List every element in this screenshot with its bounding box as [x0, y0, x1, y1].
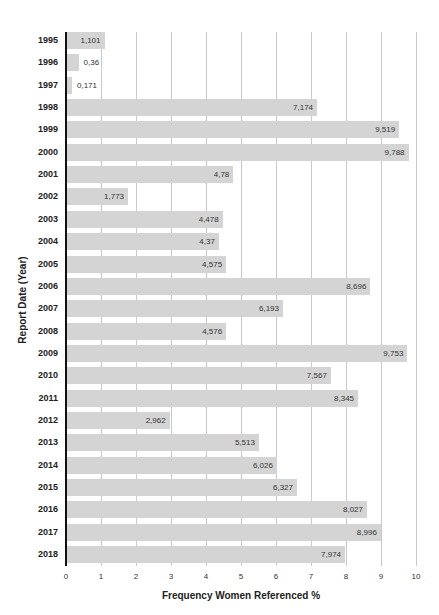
y-tick-label: 2014 [18, 457, 58, 474]
bar-row: 20122,962 [0, 412, 439, 429]
y-tick-label: 2002 [18, 188, 58, 205]
bar-value-label: 6,026 [253, 457, 273, 474]
y-tick-label: 2016 [18, 501, 58, 518]
y-tick-label: 2015 [18, 479, 58, 496]
bar-value-label: 0,36 [84, 54, 100, 71]
bar-value-label: 5,513 [235, 434, 255, 451]
y-tick-label: 2009 [18, 345, 58, 362]
bar [67, 479, 297, 496]
bar-value-label: 7,567 [307, 367, 327, 384]
bar [67, 166, 233, 183]
bar-row: 20021,773 [0, 188, 439, 205]
bar-row: 20076,193 [0, 300, 439, 317]
bar-value-label: 8,996 [357, 524, 377, 541]
bar-value-label: 4,575 [202, 256, 222, 273]
bar-value-label: 1,773 [104, 188, 124, 205]
x-tick-label: 2 [126, 572, 146, 581]
bar-row: 20034,478 [0, 211, 439, 228]
bar [67, 434, 259, 451]
bar [67, 99, 317, 116]
bar-value-label: 8,696 [346, 278, 366, 295]
y-tick-label: 2001 [18, 166, 58, 183]
bar-value-label: 4,576 [202, 323, 222, 340]
bar-value-label: 1,101 [81, 32, 101, 49]
bar-row: 20099,753 [0, 345, 439, 362]
bar-row: 20168,027 [0, 501, 439, 518]
x-tick-label: 3 [161, 572, 181, 581]
bar-row: 19960,36 [0, 54, 439, 71]
bar-row: 20084,576 [0, 323, 439, 340]
bar-row: 20178,996 [0, 524, 439, 541]
y-tick-label: 2013 [18, 434, 58, 451]
y-tick-label: 1999 [18, 121, 58, 138]
bar-value-label: 9,519 [375, 121, 395, 138]
bar-row: 20146,026 [0, 457, 439, 474]
bar [67, 501, 367, 518]
bar-row: 19951,101 [0, 32, 439, 49]
y-tick-label: 2000 [18, 144, 58, 161]
bar [67, 457, 277, 474]
bar [67, 144, 409, 161]
y-tick-label: 2017 [18, 524, 58, 541]
bar [67, 121, 399, 138]
bar-value-label: 2,962 [146, 412, 166, 429]
bar-row: 19987,174 [0, 99, 439, 116]
x-axis-title: Frequency Women Referenced % [66, 590, 416, 601]
y-tick-label: 2010 [18, 367, 58, 384]
y-tick-label: 2003 [18, 211, 58, 228]
bar-value-label: 7,974 [321, 546, 341, 563]
bar-value-label: 0,171 [77, 77, 97, 94]
y-axis-title: Report Date (Year) [17, 256, 28, 343]
bar [67, 546, 345, 563]
y-tick-label: 1996 [18, 54, 58, 71]
y-tick-label: 1997 [18, 77, 58, 94]
bar-row: 20156,327 [0, 479, 439, 496]
bar-value-label: 8,345 [334, 390, 354, 407]
bar-row: 19999,519 [0, 121, 439, 138]
bar-value-label: 9,753 [383, 345, 403, 362]
bar-row: 20187,974 [0, 546, 439, 563]
bar [67, 77, 72, 94]
y-tick-label: 1995 [18, 32, 58, 49]
bar-value-label: 7,174 [293, 99, 313, 116]
bar [67, 233, 219, 250]
bar-row: 20107,567 [0, 367, 439, 384]
y-tick-label: 2011 [18, 390, 58, 407]
x-tick-label: 7 [301, 572, 321, 581]
bar-value-label: 6,193 [259, 300, 279, 317]
bar [67, 345, 407, 362]
y-tick-label: 2004 [18, 233, 58, 250]
bar-value-label: 4,478 [199, 211, 219, 228]
horizontal-bar-chart: 19951,10119960,3619970,17119987,17419999… [0, 0, 439, 615]
bar [67, 390, 358, 407]
bar-value-label: 6,327 [273, 479, 293, 496]
bar-row: 20135,513 [0, 434, 439, 451]
bar [67, 367, 331, 384]
x-tick-label: 8 [336, 572, 356, 581]
y-tick-label: 2018 [18, 546, 58, 563]
bar-row: 20044,37 [0, 233, 439, 250]
bar [67, 300, 283, 317]
x-tick-label: 5 [231, 572, 251, 581]
x-tick-label: 4 [196, 572, 216, 581]
x-tick-label: 6 [266, 572, 286, 581]
bar-row: 20014,78 [0, 166, 439, 183]
x-tick-label: 0 [56, 572, 76, 581]
y-tick-label: 2012 [18, 412, 58, 429]
bar-value-label: 4,37 [199, 233, 215, 250]
bar-row: 20118,345 [0, 390, 439, 407]
bar-row: 20054,575 [0, 256, 439, 273]
bar-row: 20009,788 [0, 144, 439, 161]
bar-value-label: 8,027 [343, 501, 363, 518]
bar-value-label: 9,788 [385, 144, 405, 161]
bar-value-label: 4,78 [214, 166, 230, 183]
x-tick-label: 1 [91, 572, 111, 581]
bar [67, 54, 79, 71]
bar-row: 20068,696 [0, 278, 439, 295]
bar [67, 278, 370, 295]
x-tick-label: 9 [371, 572, 391, 581]
x-tick-label: 10 [406, 572, 426, 581]
bar [67, 524, 381, 541]
bar-row: 19970,171 [0, 77, 439, 94]
y-tick-label: 1998 [18, 99, 58, 116]
